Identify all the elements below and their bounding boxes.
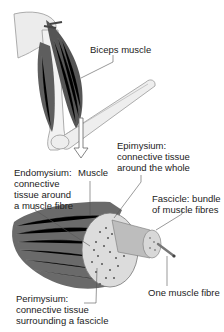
label-muscle: Muscle [78,167,108,178]
label-perimysium: Perimysium: connective tissue surroundin… [16,293,108,326]
label-endomysium: Endomysium: connective tissue around a m… [14,167,73,211]
label-biceps: Biceps muscle [90,44,151,55]
label-epimysium: Epimysium: connective tissue around the … [117,140,190,173]
label-fascicle: Fascicle: bundle of muscle fibres [152,193,221,215]
muscle-structure-diagram: Biceps muscle Epimysium: connective tiss… [0,0,224,332]
label-muscle-fibre: One muscle fibre [148,287,220,298]
